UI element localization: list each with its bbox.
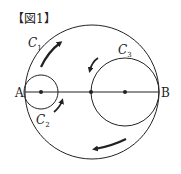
center-dot-c3 — [123, 90, 127, 94]
arrow-c2-icon — [54, 101, 62, 112]
center-dot-c2 — [39, 90, 43, 94]
arrow-c1-upper-icon — [41, 43, 60, 67]
label-c3: C3 — [118, 43, 132, 59]
arrow-c1-lower-icon — [95, 139, 126, 149]
arrow-c3-icon — [90, 58, 98, 70]
label-c2: C2 — [36, 113, 50, 129]
circle-diagram: C1 C2 C3 A B — [0, 0, 181, 174]
label-point-a: A — [14, 86, 24, 100]
label-c1: C1 — [28, 36, 42, 52]
label-point-b: B — [161, 86, 170, 100]
center-dot-c1 — [89, 90, 93, 94]
